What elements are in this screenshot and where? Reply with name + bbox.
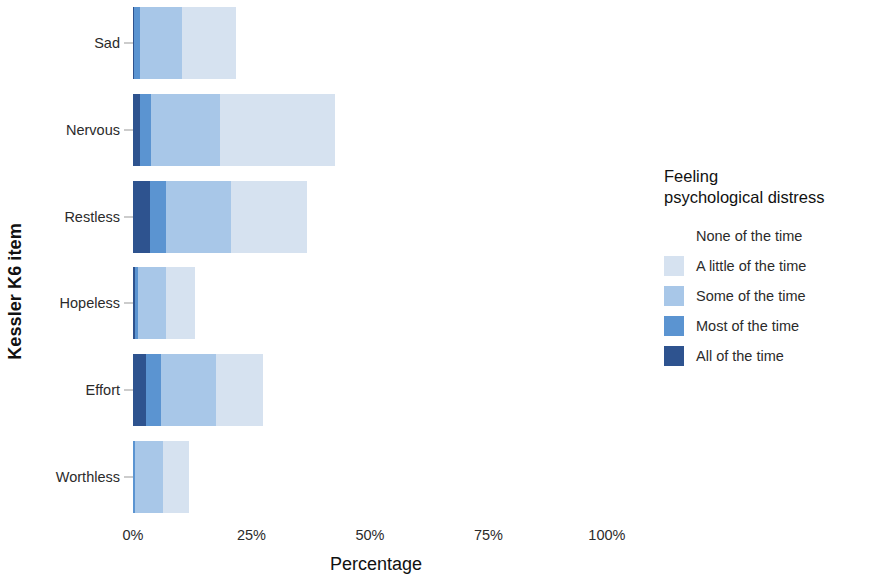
stacked-bar-nervous [133, 94, 335, 166]
y-tick-mark [124, 130, 133, 131]
x-tick-label-75: 75% [474, 527, 503, 543]
bar-row [133, 94, 623, 166]
legend-item: All of the time [664, 341, 864, 371]
y-tick-label-restless: Restless [64, 209, 120, 225]
bar-segment [138, 267, 166, 339]
bar-segment [182, 7, 236, 79]
y-tick-label-sad: Sad [94, 35, 120, 51]
stacked-bar-chart: Kessler K6 item SadNervousRestlessHopele… [0, 0, 871, 583]
y-tick-mark [124, 216, 133, 217]
y-axis-tick-labels: SadNervousRestlessHopelessEffortWorthles… [0, 0, 120, 520]
legend-label: Some of the time [696, 288, 806, 304]
legend-swatch-icon [664, 226, 684, 246]
bar-segment [150, 181, 166, 253]
bar-segment [146, 354, 161, 426]
y-tick-mark [124, 43, 133, 44]
y-tick-mark [124, 476, 133, 477]
bar-segment [231, 181, 307, 253]
x-axis-title: Percentage [139, 554, 613, 575]
bar-segment [166, 181, 231, 253]
legend-swatch-icon [664, 256, 684, 276]
bar-segment [140, 7, 182, 79]
legend-items: None of the timeA little of the timeSome… [664, 221, 864, 371]
legend-item: A little of the time [664, 251, 864, 281]
bar-row [133, 181, 623, 253]
stacked-bar-worthless [133, 441, 189, 513]
y-tick-label-worthless: Worthless [56, 469, 120, 485]
legend-label: A little of the time [696, 258, 806, 274]
bar-segment [133, 181, 150, 253]
legend-label: Most of the time [696, 318, 799, 334]
bar-segment [166, 267, 195, 339]
legend-title: Feeling psychological distress [664, 166, 864, 208]
bar-segment [220, 94, 335, 166]
bar-segment [133, 94, 140, 166]
bar-segment [163, 441, 189, 513]
plot-area [133, 0, 623, 520]
bar-row [133, 267, 623, 339]
x-tick-label-25: 25% [237, 527, 266, 543]
x-tick-label-0: 0% [123, 527, 144, 543]
x-tick-label-100: 100% [588, 527, 625, 543]
legend-swatch-icon [664, 346, 684, 366]
legend: Feeling psychological distress None of t… [664, 166, 864, 371]
stacked-bar-effort [133, 354, 263, 426]
y-tick-label-hopeless: Hopeless [60, 295, 120, 311]
legend-swatch-icon [664, 286, 684, 306]
bar-segment [151, 94, 220, 166]
bar-segment [133, 354, 146, 426]
bar-row [133, 354, 623, 426]
legend-item: Some of the time [664, 281, 864, 311]
legend-label: All of the time [696, 348, 784, 364]
bar-segment [140, 94, 151, 166]
bar-segment [216, 354, 263, 426]
legend-label: None of the time [696, 228, 802, 244]
legend-swatch-icon [664, 316, 684, 336]
y-tick-label-effort: Effort [86, 382, 120, 398]
bar-segment [135, 441, 163, 513]
y-tick-mark [124, 390, 133, 391]
y-tick-label-nervous: Nervous [66, 122, 120, 138]
bar-row [133, 441, 623, 513]
y-tick-mark [124, 303, 133, 304]
stacked-bar-hopeless [133, 267, 195, 339]
legend-item: None of the time [664, 221, 864, 251]
bar-segment [161, 354, 216, 426]
x-tick-label-50: 50% [355, 527, 384, 543]
stacked-bar-sad [133, 7, 236, 79]
stacked-bar-restless [133, 181, 307, 253]
legend-item: Most of the time [664, 311, 864, 341]
bar-row [133, 7, 623, 79]
